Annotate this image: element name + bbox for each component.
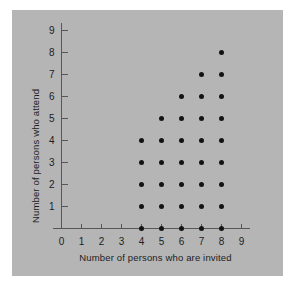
- data-point: [219, 204, 224, 209]
- data-point: [219, 50, 224, 55]
- y-tick-label: 2: [40, 180, 55, 190]
- data-point: [139, 182, 144, 187]
- x-tick-label: 0: [52, 237, 72, 247]
- x-tick-mark: [121, 224, 122, 229]
- data-point: [139, 204, 144, 209]
- scatter-plot: 0123456789 123456789 Number of persons w…: [0, 0, 296, 289]
- data-point: [199, 94, 204, 99]
- data-point: [199, 72, 204, 77]
- data-point: [179, 182, 184, 187]
- data-point: [219, 226, 224, 231]
- y-tick-label: 9: [40, 26, 55, 36]
- y-tick-mark: [62, 74, 68, 75]
- data-point: [159, 160, 164, 165]
- data-point: [139, 160, 144, 165]
- x-tick-label: 7: [192, 237, 212, 247]
- data-point: [199, 182, 204, 187]
- data-point: [219, 160, 224, 165]
- data-point: [199, 116, 204, 121]
- data-point: [179, 226, 184, 231]
- y-tick-label: 3: [40, 158, 55, 168]
- data-point: [199, 160, 204, 165]
- data-point: [219, 182, 224, 187]
- x-tick-label: 2: [92, 237, 112, 247]
- data-point: [179, 204, 184, 209]
- data-point: [139, 138, 144, 143]
- x-tick-label: 4: [132, 237, 152, 247]
- y-axis-title: Number of persons who attend: [30, 88, 41, 222]
- data-point: [179, 138, 184, 143]
- y-tick-mark: [62, 184, 68, 185]
- data-point: [159, 204, 164, 209]
- data-point: [139, 226, 144, 231]
- x-tick-label: 1: [72, 237, 92, 247]
- data-point: [199, 138, 204, 143]
- y-tick-mark: [62, 140, 68, 141]
- y-tick-mark: [62, 162, 68, 163]
- x-tick-label: 9: [232, 237, 252, 247]
- data-point: [219, 72, 224, 77]
- y-tick-label: 7: [40, 70, 55, 80]
- data-point: [159, 226, 164, 231]
- data-point: [219, 138, 224, 143]
- data-point: [159, 182, 164, 187]
- y-tick-mark: [62, 96, 68, 97]
- data-point: [179, 116, 184, 121]
- data-point: [179, 160, 184, 165]
- data-point: [159, 116, 164, 121]
- data-point: [199, 226, 204, 231]
- y-tick-mark: [62, 118, 68, 119]
- data-point: [179, 94, 184, 99]
- y-tick-label: 1: [40, 202, 55, 212]
- y-tick-label: 4: [40, 136, 55, 146]
- y-tick-label: 5: [40, 114, 55, 124]
- x-tick-label: 5: [152, 237, 172, 247]
- x-tick-mark: [241, 224, 242, 229]
- x-tick-label: 6: [172, 237, 192, 247]
- data-point: [199, 204, 204, 209]
- x-tick-label: 8: [212, 237, 232, 247]
- x-tick-label: 3: [112, 237, 132, 247]
- data-point: [159, 138, 164, 143]
- y-tick-mark: [62, 206, 68, 207]
- y-tick-mark: [62, 30, 68, 31]
- data-point: [219, 116, 224, 121]
- x-tick-mark: [101, 224, 102, 229]
- x-axis-title: Number of persons who are invited: [66, 252, 246, 263]
- y-tick-mark: [62, 52, 68, 53]
- y-tick-label: 6: [40, 92, 55, 102]
- y-tick-label: 8: [40, 48, 55, 58]
- data-point: [219, 94, 224, 99]
- x-tick-mark: [81, 224, 82, 229]
- chart-page: 0123456789 123456789 Number of persons w…: [0, 0, 296, 289]
- y-axis-line: [61, 23, 62, 229]
